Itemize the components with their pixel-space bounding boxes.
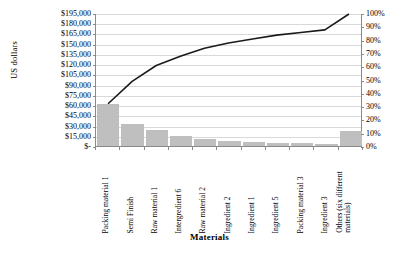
y2-tick-label: 20% bbox=[366, 116, 406, 124]
y-axis-left-ticks: $195,000$180,000$165,000$150,000$135,000… bbox=[33, 14, 91, 147]
x-axis-category-labels: Packing material 1Semi FinishRaw materia… bbox=[95, 151, 362, 233]
x-axis-title: Materials bbox=[0, 232, 419, 242]
x-tickmark bbox=[289, 147, 290, 150]
x-tickmark bbox=[362, 147, 363, 150]
y-tick-label: $135,000 bbox=[33, 51, 91, 59]
x-category-label: Others (six different materials) bbox=[336, 161, 353, 233]
x-category-label: Raw material 1 bbox=[150, 187, 158, 233]
y-tickmark bbox=[93, 127, 96, 128]
y2-tickmark bbox=[361, 14, 364, 15]
y2-tick-label: 40% bbox=[366, 90, 406, 98]
y2-tick-label: 10% bbox=[366, 130, 406, 138]
y-tickmark bbox=[93, 116, 96, 117]
y2-tick-label: 50% bbox=[366, 77, 406, 85]
x-category-label: Ingredient 2 bbox=[223, 196, 231, 233]
y-tick-label: $60,000 bbox=[33, 102, 91, 110]
y-tick-label: $15,000 bbox=[33, 133, 91, 141]
x-category-label: Semi Finish bbox=[126, 196, 134, 233]
y2-tickmark bbox=[361, 67, 364, 68]
x-category-label: Ingredient 1 bbox=[248, 196, 256, 233]
y-tickmark bbox=[93, 55, 96, 56]
y2-tick-label: 90% bbox=[366, 23, 406, 31]
x-category-label: Packing material 1 bbox=[102, 176, 110, 233]
y2-tickmark bbox=[361, 27, 364, 28]
x-tickmark bbox=[265, 147, 266, 150]
y-tickmark bbox=[93, 65, 96, 66]
y-tick-label: $30,000 bbox=[33, 123, 91, 131]
y-tick-label: $45,000 bbox=[33, 112, 91, 120]
y-tick-label: $75,000 bbox=[33, 92, 91, 100]
y-tickmark bbox=[93, 34, 96, 35]
y-tick-label: $120,000 bbox=[33, 61, 91, 69]
y-tickmark bbox=[93, 75, 96, 76]
y-axis-title: US dollars bbox=[9, 15, 19, 105]
y2-tick-label: 100% bbox=[366, 10, 406, 18]
y-tick-label: $150,000 bbox=[33, 41, 91, 49]
plot-area bbox=[95, 14, 362, 147]
y-axis-right-ticks: 100%90%80%70%60%50%40%30%20%10%0% bbox=[366, 14, 410, 147]
y-tick-label: $105,000 bbox=[33, 71, 91, 79]
x-tickmark bbox=[338, 147, 339, 150]
y2-tickmark bbox=[361, 94, 364, 95]
y2-tickmark bbox=[361, 54, 364, 55]
y2-tickmark bbox=[361, 120, 364, 121]
y-tickmark bbox=[93, 86, 96, 87]
x-tickmark bbox=[192, 147, 193, 150]
y2-tickmark bbox=[361, 41, 364, 42]
y2-tick-label: 80% bbox=[366, 37, 406, 45]
y2-tickmark bbox=[361, 107, 364, 108]
y2-tick-label: 60% bbox=[366, 63, 406, 71]
x-category-label: Ingredient 3 bbox=[320, 196, 328, 233]
y2-tickmark bbox=[361, 134, 364, 135]
x-category-label: Raw material 2 bbox=[199, 187, 207, 233]
y2-tickmark bbox=[361, 81, 364, 82]
x-category-label: Packing material 3 bbox=[296, 176, 304, 233]
x-tickmark bbox=[216, 147, 217, 150]
y2-tick-label: 0% bbox=[366, 143, 406, 151]
y-tickmark bbox=[93, 106, 96, 107]
y-tickmark bbox=[93, 45, 96, 46]
y2-tick-label: 30% bbox=[366, 103, 406, 111]
x-tickmark bbox=[241, 147, 242, 150]
x-tickmark bbox=[313, 147, 314, 150]
x-category-label: Intergredient 6 bbox=[175, 188, 183, 233]
y-tick-label: $- bbox=[33, 143, 91, 151]
y2-tick-label: 70% bbox=[366, 50, 406, 58]
y-tickmark bbox=[93, 14, 96, 15]
x-tickmark bbox=[119, 147, 120, 150]
y-tick-label: $90,000 bbox=[33, 82, 91, 90]
x-tickmark bbox=[168, 147, 169, 150]
y-tickmark bbox=[93, 24, 96, 25]
y-tick-label: $180,000 bbox=[33, 20, 91, 28]
x-tickmark bbox=[95, 147, 96, 150]
x-category-label: Ingredient 5 bbox=[272, 196, 280, 233]
y-tick-label: $165,000 bbox=[33, 30, 91, 38]
y-tick-label: $195,000 bbox=[33, 10, 91, 18]
y-tickmark bbox=[93, 137, 96, 138]
pareto-chart: US dollars $195,000$180,000$165,000$150,… bbox=[0, 0, 419, 254]
y-tickmark bbox=[93, 96, 96, 97]
x-tickmark bbox=[144, 147, 145, 150]
cumulative-line-series bbox=[96, 14, 361, 146]
